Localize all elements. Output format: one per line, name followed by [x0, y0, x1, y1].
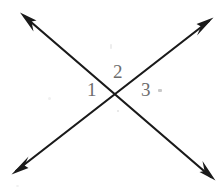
angle-label-2: 2 — [113, 62, 123, 81]
angle-label-3: 3 — [141, 80, 151, 99]
diagram-canvas — [0, 0, 222, 193]
angle-label-1: 1 — [87, 80, 97, 99]
angle-diagram-figure: 1 2 3 — [0, 0, 222, 193]
